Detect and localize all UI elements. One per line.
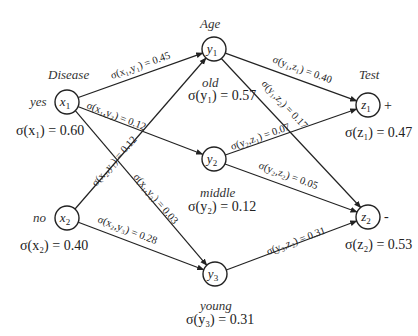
prob-y3: σ(y₃) = 0.31 xyxy=(186,313,254,327)
edge-label-y2-z1: σ(y₂,z₁) = 0.07 xyxy=(229,121,292,153)
state-x1: yes xyxy=(30,95,47,108)
edge-label-x2-y1: σ(x₂,y₁) = 0.12 xyxy=(89,134,139,189)
state-y3: young xyxy=(200,299,232,312)
state-z1: + xyxy=(384,99,392,113)
prob-z1: σ(z₁) = 0.47 xyxy=(345,126,412,140)
state-y2: middle xyxy=(200,186,235,199)
layer-title-disease: Disease xyxy=(48,68,89,81)
edge-label-x1-y2: σ(x₁,y₂) = 0.12 xyxy=(85,100,148,134)
state-x2: no xyxy=(33,211,46,224)
layer-title-test: Test xyxy=(359,68,379,81)
prob-y1: σ(y₁) = 0.57 xyxy=(188,89,256,103)
prob-y2: σ(y₂) = 0.12 xyxy=(188,200,256,214)
network-graph: σ(x₁,y₁) = 0.45 σ(x₁,y₂) = 0.12 σ(x₁,y₃)… xyxy=(0,0,418,336)
prob-z2: σ(z₂) = 0.53 xyxy=(345,238,412,252)
prob-x2: σ(x₂) = 0.40 xyxy=(20,239,88,253)
edge-y1-z2 xyxy=(221,59,360,208)
edge-label-x1-y1: σ(x₁,y₁) = 0.45 xyxy=(109,50,172,82)
edge-label-x2-y3: σ(x₂,y₃) = 0.28 xyxy=(96,214,159,247)
layer-title-age: Age xyxy=(200,17,220,30)
state-z2: - xyxy=(384,210,389,224)
edge-label-y3-z2: σ(y₃,z₂) = 0.31 xyxy=(265,225,327,258)
edge-label-x1-y3: σ(x₁,y₃) = 0.03 xyxy=(131,171,181,226)
prob-x1: σ(x₁) = 0.60 xyxy=(16,124,84,138)
bayesian-network-diagram: σ(x₁,y₁) = 0.45 σ(x₁,y₂) = 0.12 σ(x₁,y₃)… xyxy=(0,0,418,336)
